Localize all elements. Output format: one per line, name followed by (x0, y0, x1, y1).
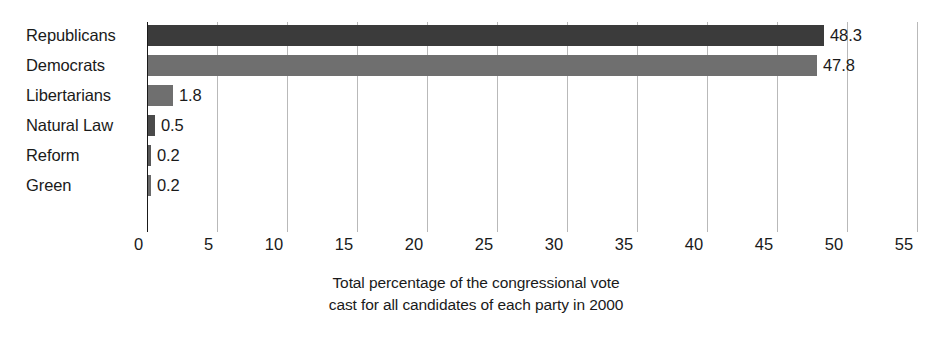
bar-value-label: 0.5 (161, 115, 184, 136)
category-label: Republicans (26, 25, 142, 46)
chart-figure: RepublicansDemocratsLibertariansNatural … (0, 0, 952, 350)
bar-value-label: 48.3 (830, 25, 862, 46)
x-tick-label: 50 (793, 234, 843, 254)
x-tick-label: 45 (723, 234, 773, 254)
caption-line: Total percentage of the congressional vo… (0, 272, 952, 294)
x-tick-label: 20 (373, 234, 423, 254)
x-tick-label: 15 (303, 234, 353, 254)
category-label: Natural Law (26, 115, 142, 136)
bar (148, 175, 151, 196)
category-label: Libertarians (26, 85, 142, 106)
bar-value-label: 47.8 (823, 55, 855, 76)
bar (148, 115, 155, 136)
gridline-30 (567, 22, 568, 232)
gridline-40 (707, 22, 708, 232)
category-label: Reform (26, 145, 142, 166)
gridline-50 (847, 22, 848, 232)
gridline-5 (217, 22, 218, 232)
bar-value-label: 1.8 (179, 85, 202, 106)
category-label: Green (26, 175, 142, 196)
gridline-25 (497, 22, 498, 232)
bar (148, 145, 151, 166)
gridline-35 (637, 22, 638, 232)
bar-value-label: 0.2 (157, 175, 180, 196)
x-tick-label: 55 (863, 234, 913, 254)
bar (148, 55, 817, 76)
caption-line: cast for all candidates of each party in… (0, 294, 952, 316)
bar (148, 85, 173, 106)
gridline-20 (427, 22, 428, 232)
gridline-55 (917, 22, 918, 232)
x-tick-label: 5 (163, 234, 213, 254)
x-tick-label: 40 (653, 234, 703, 254)
bar (148, 25, 824, 46)
x-tick-label: 0 (93, 234, 143, 254)
x-tick-label: 30 (513, 234, 563, 254)
x-tick-label: 35 (583, 234, 633, 254)
category-label: Democrats (26, 55, 142, 76)
x-tick-label: 25 (443, 234, 493, 254)
gridline-15 (357, 22, 358, 232)
plot-area: RepublicansDemocratsLibertariansNatural … (0, 0, 952, 240)
chart-caption: Total percentage of the congressional vo… (0, 272, 952, 316)
gridline-45 (777, 22, 778, 232)
bar-value-label: 0.2 (157, 145, 180, 166)
gridline-10 (287, 22, 288, 232)
x-tick-label: 10 (233, 234, 283, 254)
